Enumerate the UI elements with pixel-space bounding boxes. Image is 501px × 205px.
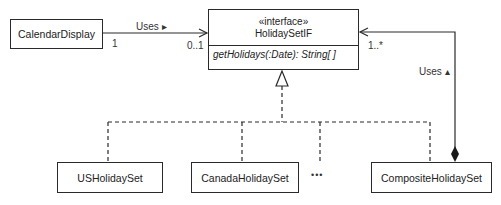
class-name: USHolidaySet bbox=[77, 172, 142, 184]
operation: getHolidays(:Date): String[ ] bbox=[209, 46, 358, 60]
interface-holiday-set: «interface» HolidaySetIF getHolidays(:Da… bbox=[208, 9, 359, 70]
class-name: CanadaHolidaySet bbox=[201, 172, 289, 184]
class-us-holiday-set: USHolidaySet bbox=[57, 162, 163, 193]
association-label-uses: Uses ▸ bbox=[136, 21, 167, 32]
class-canada-holiday-set: CanadaHolidaySet bbox=[191, 162, 299, 193]
multiplicity-composite-target: 1..* bbox=[368, 40, 383, 51]
class-composite-holiday-set: CompositeHolidaySet bbox=[371, 162, 492, 193]
multiplicity-source: 1 bbox=[112, 38, 118, 49]
class-name: CompositeHolidaySet bbox=[381, 172, 482, 184]
ellipsis: ••• bbox=[311, 170, 323, 180]
multiplicity-target: 0..1 bbox=[187, 40, 204, 51]
class-calendar-display: CalendarDisplay bbox=[10, 19, 103, 49]
association-label-composite-uses: Uses ▴ bbox=[419, 66, 450, 77]
stereotype: «interface» bbox=[259, 16, 308, 28]
interface-name: HolidaySetIF bbox=[255, 28, 312, 40]
class-name: CalendarDisplay bbox=[18, 28, 95, 40]
interface-header: «interface» HolidaySetIF bbox=[209, 10, 358, 46]
